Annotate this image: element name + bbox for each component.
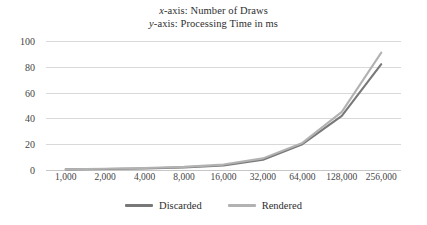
gridline-0 (46, 170, 401, 171)
y-tick-label-60: 60 (25, 87, 35, 98)
chart-title-line-y-text: -axis: Processing Time in ms (154, 18, 278, 29)
x-tick-label-2: 4,000 (125, 172, 164, 188)
x-tick-label-8: 256,000 (362, 172, 401, 188)
legend-swatch-discarded-icon (125, 204, 153, 207)
x-axis: 1,0002,0004,0008,00016,00032,00064,00012… (46, 172, 401, 188)
chart-title-line-x-text: -axis: Number of Draws (164, 5, 268, 16)
legend-item-discarded[interactable]: Discarded (125, 200, 202, 211)
chart-legend: DiscardedRendered (0, 200, 427, 211)
x-tick-label-1: 2,000 (85, 172, 124, 188)
legend-label-rendered: Rendered (262, 200, 302, 211)
y-tick-label-40: 40 (25, 113, 35, 124)
chart-container: x-axis: Number of Draws y-axis: Processi… (0, 0, 427, 225)
x-tick-label-3: 8,000 (164, 172, 203, 188)
y-tick-label-0: 0 (30, 165, 35, 176)
y-tick-label-100: 100 (20, 36, 35, 47)
legend-item-rendered[interactable]: Rendered (228, 200, 302, 211)
legend-label-discarded: Discarded (159, 200, 202, 211)
x-tick-label-7: 128,000 (322, 172, 361, 188)
y-tick-label-20: 20 (25, 139, 35, 150)
series-line-rendered (66, 53, 382, 170)
x-tick-label-0: 1,000 (46, 172, 85, 188)
chart-title-line-x: x-axis: Number of Draws (0, 4, 427, 17)
series-layer (46, 41, 401, 170)
plot-area (46, 41, 401, 170)
x-tick-label-4: 16,000 (204, 172, 243, 188)
chart-title-line-y: y-axis: Processing Time in ms (0, 17, 427, 30)
chart-title: x-axis: Number of Draws y-axis: Processi… (0, 4, 427, 30)
x-tick-label-6: 64,000 (283, 172, 322, 188)
y-tick-label-80: 80 (25, 61, 35, 72)
x-tick-label-5: 32,000 (243, 172, 282, 188)
series-line-discarded (66, 64, 382, 169)
y-axis: 020406080100 (0, 41, 40, 170)
legend-swatch-rendered-icon (228, 204, 256, 207)
